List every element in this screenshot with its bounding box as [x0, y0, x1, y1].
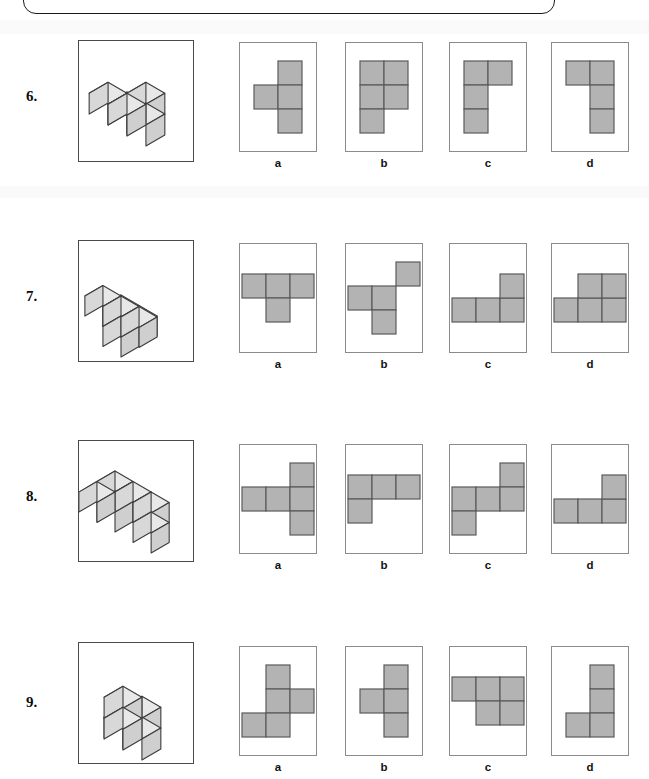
figure-panel-cube-stack-9 [78, 642, 194, 764]
option-panel-a[interactable] [239, 42, 317, 152]
option-label-c[interactable]: c [449, 559, 527, 571]
option-label-b[interactable]: b [345, 358, 423, 370]
option-label-a[interactable]: a [239, 761, 317, 773]
net-svg [552, 445, 628, 553]
net-svg [240, 43, 316, 151]
option-label-d[interactable]: d [551, 358, 629, 370]
option-panel-b[interactable] [345, 42, 423, 152]
question-row-9: 9.abcd [0, 642, 649, 779]
net-svg [346, 647, 422, 755]
option-label-d[interactable]: d [551, 761, 629, 773]
net-svg [240, 445, 316, 553]
option-label-d[interactable]: d [551, 157, 629, 169]
net-svg [240, 647, 316, 755]
option-panel-c[interactable] [449, 444, 527, 554]
option-panel-a[interactable] [239, 646, 317, 756]
option-label-c[interactable]: c [449, 761, 527, 773]
net-svg [450, 43, 526, 151]
cube-figure-svg [79, 441, 193, 561]
question-row-8: 8.abcd [0, 440, 649, 640]
option-panel-a[interactable] [239, 444, 317, 554]
option-label-d[interactable]: d [551, 559, 629, 571]
question-row-7: 7.abcd [0, 240, 649, 440]
option-label-b[interactable]: b [345, 559, 423, 571]
net-svg [450, 244, 526, 352]
option-panel-a[interactable] [239, 243, 317, 353]
net-svg [450, 647, 526, 755]
cube-figure-svg [79, 643, 193, 763]
option-label-a[interactable]: a [239, 559, 317, 571]
question-number: 7. [26, 288, 60, 305]
option-panel-d[interactable] [551, 646, 629, 756]
net-svg [346, 445, 422, 553]
cube-figure-svg [79, 241, 193, 361]
option-label-a[interactable]: a [239, 358, 317, 370]
option-label-a[interactable]: a [239, 157, 317, 169]
option-label-c[interactable]: c [449, 157, 527, 169]
option-panel-c[interactable] [449, 42, 527, 152]
option-panel-d[interactable] [551, 42, 629, 152]
net-svg [346, 43, 422, 151]
option-panel-c[interactable] [449, 243, 527, 353]
net-svg [552, 43, 628, 151]
question-number: 6. [26, 88, 60, 105]
net-svg [552, 244, 628, 352]
option-label-b[interactable]: b [345, 761, 423, 773]
net-svg [552, 647, 628, 755]
option-panel-c[interactable] [449, 646, 527, 756]
figure-panel-cube-stack-8 [78, 440, 194, 562]
option-panel-d[interactable] [551, 444, 629, 554]
figure-panel-cube-stack-7 [78, 240, 194, 362]
question-number: 9. [26, 694, 60, 711]
question-row-6: 6.abcd [0, 40, 649, 240]
option-panel-b[interactable] [345, 243, 423, 353]
instruction-box [23, 0, 555, 14]
option-panel-b[interactable] [345, 646, 423, 756]
cube-figure-svg [79, 41, 193, 161]
option-label-b[interactable]: b [345, 157, 423, 169]
option-panel-b[interactable] [345, 444, 423, 554]
net-svg [450, 445, 526, 553]
option-label-c[interactable]: c [449, 358, 527, 370]
option-panel-d[interactable] [551, 243, 629, 353]
figure-panel-cube-stack-6 [78, 40, 194, 162]
net-svg [240, 244, 316, 352]
question-number: 8. [26, 488, 60, 505]
net-svg [346, 244, 422, 352]
